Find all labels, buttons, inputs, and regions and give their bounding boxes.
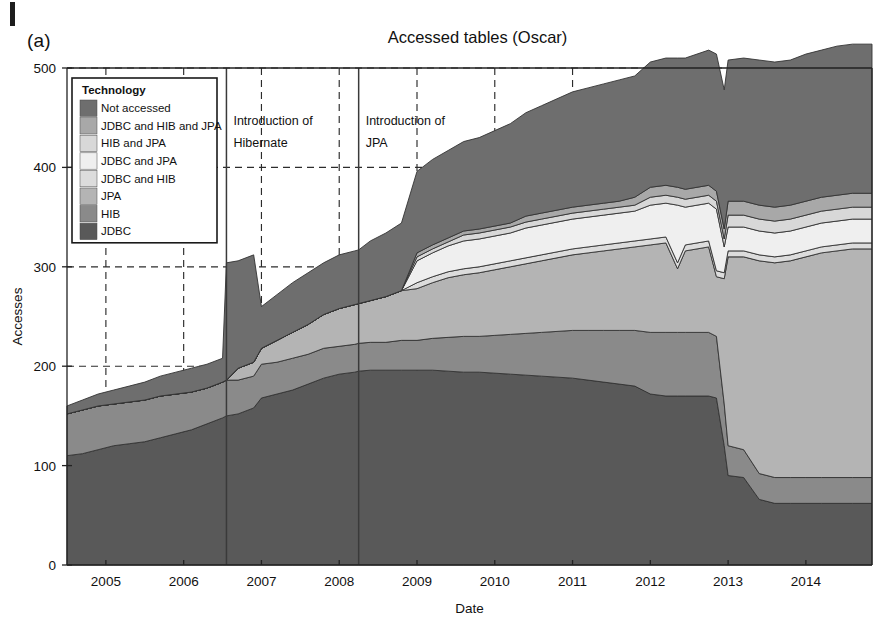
legend-swatch [80,135,97,151]
y-tick-label: 0 [48,558,56,573]
legend-item-label[interactable]: JDBC and HIB and JPA [101,120,222,132]
y-axis-title: Accesses [10,287,25,345]
legend-swatch [80,100,97,116]
legend-swatch [80,170,97,186]
x-tick-label: 2008 [324,574,354,589]
x-tick-label: 2007 [246,574,276,589]
y-tick-label: 200 [33,359,56,374]
annotation-text: Introduction of [366,114,446,128]
x-tick-label: 2014 [791,574,822,589]
x-tick-label: 2012 [635,574,665,589]
figure-panel: (a) Accessed tables (Oscar) 010020030040… [0,0,885,630]
legend-swatch [80,188,97,204]
legend-title: Technology [82,84,146,96]
legend-item-label[interactable]: JDBC [101,225,131,237]
x-tick-label: 2005 [91,574,121,589]
annotation-text: Introduction of [233,114,313,128]
legend-item-label[interactable]: JDBC and HIB [101,173,176,185]
y-tick-label: 500 [33,61,56,76]
legend-swatch [80,153,97,169]
legend-item-label[interactable]: HIB and JPA [101,137,166,149]
legend-item-label[interactable]: JDBC and JPA [101,155,177,167]
legend-swatch [80,223,97,239]
x-tick-label: 2010 [480,574,510,589]
legend-swatch [80,118,97,134]
legend-item-label[interactable]: JPA [101,190,122,202]
y-tick-label: 300 [33,260,56,275]
annotation-text: JPA [366,136,389,150]
annotation-text: Hibernate [233,136,287,150]
stacked-area-chart: 0100200300400500200520062007200820092010… [0,0,885,630]
legend-swatch [80,206,97,222]
x-tick-label: 2013 [713,574,743,589]
x-tick-label: 2011 [558,574,587,589]
y-tick-label: 400 [33,160,56,175]
x-tick-label: 2006 [169,574,199,589]
x-axis-title: Date [455,601,484,616]
legend-item-label[interactable]: Not accessed [101,102,171,114]
legend-item-label[interactable]: HIB [101,208,121,220]
chart-legend[interactable]: TechnologyNot accessedJDBC and HIB and J… [72,78,222,243]
x-tick-label: 2009 [402,574,432,589]
y-tick-label: 100 [33,459,56,474]
